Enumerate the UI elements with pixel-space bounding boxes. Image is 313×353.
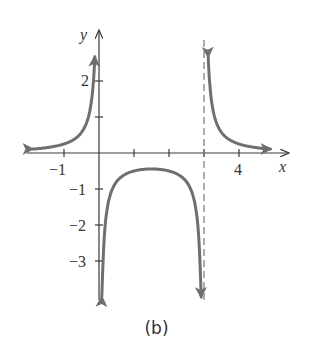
- middle-branch-curve: [102, 169, 201, 297]
- y-tick-label-neg2: −2: [69, 217, 86, 234]
- y-tick-label-neg1: −1: [69, 181, 86, 198]
- figure-caption: (b): [0, 318, 313, 338]
- y-tick-label-2: 2: [81, 72, 89, 89]
- right-branch-curve: [208, 57, 270, 149]
- left-branch-curve: [33, 57, 95, 149]
- y-tick-label-neg3: −3: [69, 253, 86, 270]
- x-axis-label: x: [278, 158, 286, 175]
- function-graph: y x −1 4 2 −1 −2 −3: [0, 0, 313, 353]
- x-tick-label-4: 4: [234, 161, 242, 178]
- y-axis-label: y: [78, 26, 88, 44]
- x-tick-label-neg1: −1: [49, 161, 66, 178]
